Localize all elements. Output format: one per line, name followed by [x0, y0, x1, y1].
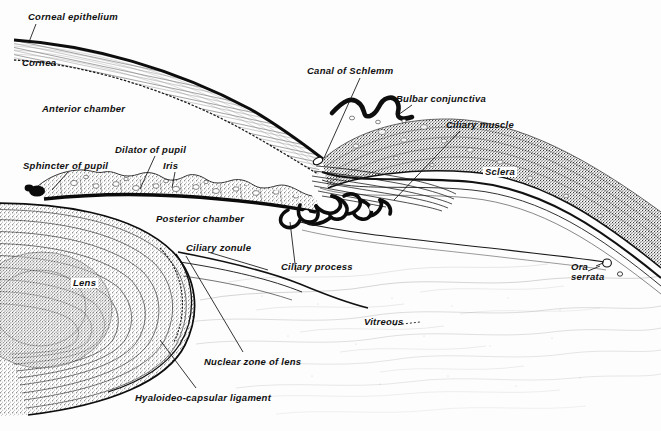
- label-nuclear-zone-of-lens: Nuclear zone of lens: [204, 357, 301, 367]
- leader-corneal-epithelium: [29, 24, 36, 42]
- label-posterior-chamber: Posterior chamber: [156, 214, 244, 224]
- label-lens: Lens: [71, 278, 98, 288]
- label-ora-serrata-line2: serrata: [571, 271, 604, 282]
- label-dilator-of-pupil: Dilator of pupil: [115, 145, 186, 155]
- sclera-body: [322, 119, 661, 268]
- label-bulbar-conjunctiva: Bulbar conjunctiva: [396, 94, 486, 104]
- eye-anatomy-figure: Corneal epithelium Cornea Anterior chamb…: [0, 0, 661, 431]
- lens-body: [0, 203, 195, 417]
- label-canal-of-schlemm: Canal of Schlemm: [307, 66, 393, 76]
- label-cornea: Cornea: [22, 58, 56, 68]
- label-corneal-epithelium: Corneal epithelium: [28, 12, 118, 22]
- label-anterior-chamber: Anterior chamber: [42, 104, 125, 114]
- leader-ciliary-zonule: [208, 252, 268, 270]
- label-vitreous: Vitreous: [364, 317, 404, 327]
- label-ciliary-process: Ciliary process: [281, 262, 353, 272]
- label-iris: Iris: [163, 161, 178, 171]
- label-hyaloideo-capsular-ligament: Hyaloideo-capsular ligament: [135, 393, 271, 403]
- label-ora-serrata: Oraserrata: [571, 262, 604, 281]
- label-ciliary-zonule: Ciliary zonule: [186, 243, 251, 253]
- vitreous-stipple: [262, 296, 581, 387]
- label-sphincter-of-pupil: Sphincter of pupil: [23, 161, 108, 171]
- label-sclera: Sclera: [483, 167, 517, 177]
- ora-serrata-point: [603, 259, 623, 276]
- iris-body: [38, 170, 318, 212]
- label-ciliary-muscle: Ciliary muscle: [446, 120, 514, 130]
